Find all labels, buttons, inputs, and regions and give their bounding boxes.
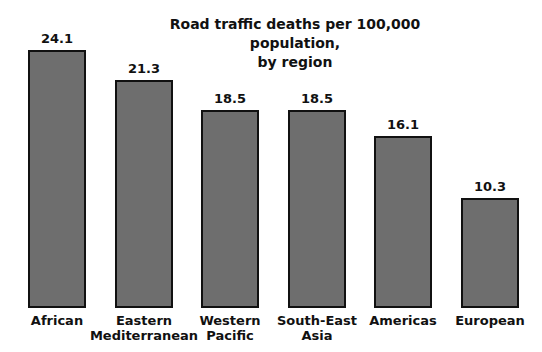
value-label: 10.3 (450, 179, 530, 194)
value-label: 16.1 (363, 117, 443, 132)
title-line-1: Road traffic deaths per 100,000 populati… (150, 15, 440, 53)
category-label: European (435, 313, 542, 328)
bar-western-pacific (201, 110, 259, 308)
bar-african (28, 50, 86, 308)
bar-european (461, 198, 519, 308)
category-label-line: Asia (262, 328, 372, 343)
bar-americas (374, 136, 432, 308)
chart-title: Road traffic deaths per 100,000 populati… (150, 15, 440, 72)
bar-eastern-mediterranean (115, 80, 173, 308)
value-label: 24.1 (17, 31, 97, 46)
value-label: 18.5 (277, 91, 357, 106)
title-line-2: by region (150, 53, 440, 72)
value-label: 21.3 (104, 61, 184, 76)
value-label: 18.5 (190, 91, 270, 106)
bar-south-east-asia (288, 110, 346, 308)
category-label-line: European (435, 313, 542, 328)
